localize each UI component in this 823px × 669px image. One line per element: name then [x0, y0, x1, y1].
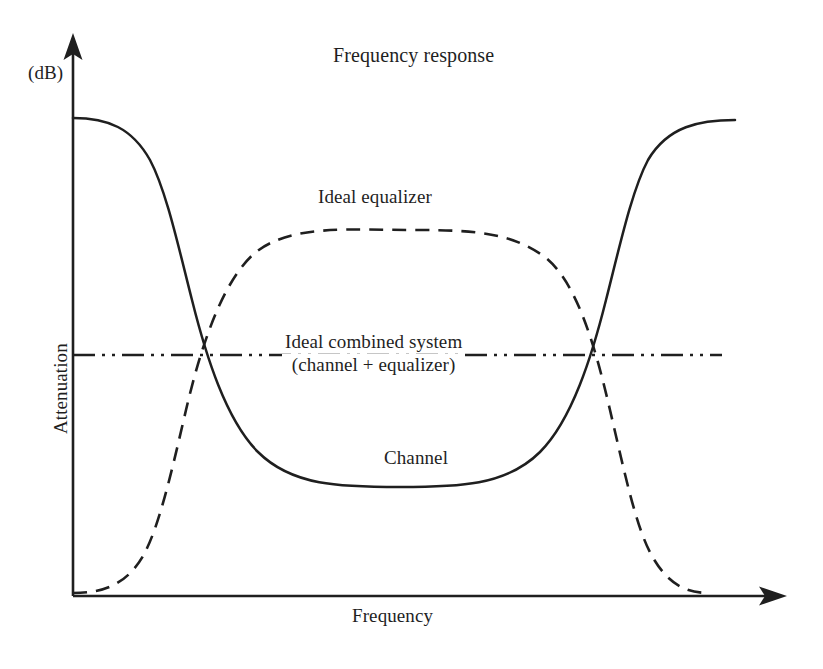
- x-axis-title: Frequency: [352, 605, 433, 626]
- axis-group: [64, 33, 788, 606]
- combined-system-label: Ideal combined system (channel + equaliz…: [282, 331, 465, 376]
- ideal-equalizer-label: Ideal equalizer: [318, 186, 432, 207]
- frequency-response-figure: Frequency response (dB) Attenuation Freq…: [0, 0, 823, 669]
- combined-system-label-line-1: Ideal combined system: [282, 331, 465, 352]
- y-axis-title: Attenuation: [50, 309, 71, 469]
- channel-label: Channel: [384, 447, 448, 468]
- combined-system-label-line-2: (channel + equalizer): [282, 354, 465, 375]
- y-axis-unit-label: (dB): [28, 62, 63, 83]
- chart-title: Frequency response: [333, 44, 494, 66]
- ideal-equalizer-curve: [73, 229, 710, 593]
- channel-curve: [73, 118, 735, 487]
